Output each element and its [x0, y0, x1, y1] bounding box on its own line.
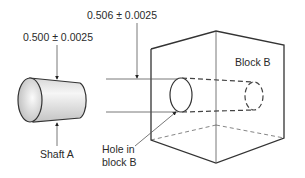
shaft-a — [18, 78, 86, 122]
hole-label-leader — [135, 112, 176, 146]
hole-label-line1: Hole in — [102, 143, 135, 155]
shaft-dimension-label: 0.500 ± 0.0025 — [23, 31, 93, 43]
hole — [170, 78, 263, 112]
hole-label-line2: block B — [102, 156, 136, 168]
block-hidden-edges — [151, 125, 284, 140]
hole-back-edge — [245, 82, 263, 110]
shaft-end-face — [18, 78, 42, 122]
hole-dimension-label: 0.506 ± 0.0025 — [87, 9, 157, 21]
shaft-hole-diagram: 0.506 ± 0.0025 0.500 ± 0.0025 Block B Sh… — [0, 0, 305, 178]
hole-front-edge — [170, 78, 192, 112]
block-label: Block B — [235, 56, 271, 68]
shaft-label: Shaft A — [40, 148, 74, 160]
